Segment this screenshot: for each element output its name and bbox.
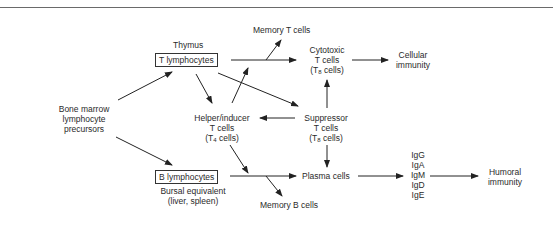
- thymus-label: Thymus: [173, 40, 203, 50]
- edge-t-suppressor: [218, 73, 298, 106]
- bone-marrow-line2: lymphocyte: [52, 114, 116, 124]
- cytotoxic-t-cells-label: Cytotoxic T cells (T8 cells): [300, 45, 354, 77]
- cellular-immunity-label: Cellular immunity: [388, 50, 438, 70]
- helper-line3: (T4 cells): [187, 133, 257, 145]
- edge-helper-t: [232, 68, 248, 103]
- cellular-line1: Cellular: [388, 50, 438, 60]
- bone-marrow-line3: precursors: [52, 124, 116, 134]
- bone-marrow-line1: Bone marrow: [52, 104, 116, 114]
- helper-line2: T cells: [187, 123, 257, 133]
- ig-item: IgG: [406, 150, 430, 160]
- edge-bonemarrow-b: [116, 137, 172, 165]
- ig-item: IgA: [406, 160, 430, 170]
- humoral-immunity-label: Humoral immunity: [480, 167, 530, 187]
- suppressor-line2: T cells: [297, 123, 355, 133]
- memory-b-cells-label: Memory B cells: [260, 200, 318, 210]
- humoral-line1: Humoral: [480, 167, 530, 177]
- helper-inducer-t-cells-label: Helper/inducer T cells (T4 cells): [187, 113, 257, 145]
- b-lymphocytes-box: B lymphocytes: [155, 170, 218, 184]
- t-lymphocytes-box: T lymphocytes: [155, 53, 218, 67]
- suppressor-line1: Suppressor: [297, 113, 355, 123]
- edge-t-helper: [196, 74, 212, 103]
- bone-marrow-precursors-label: Bone marrow lymphocyte precursors: [52, 104, 116, 134]
- cytotoxic-line3: (T8 cells): [300, 65, 354, 77]
- bursal-equivalent-label: Bursal equivalent (liver, spleen): [153, 186, 233, 206]
- bursal-line1: Bursal equivalent: [153, 186, 233, 196]
- helper-line1: Helper/inducer: [187, 113, 257, 123]
- humoral-line2: immunity: [480, 177, 530, 187]
- plasma-cells-label: Plasma cells: [302, 171, 350, 181]
- edge-bonemarrow-t: [118, 72, 172, 100]
- memory-t-cells-label: Memory T cells: [253, 25, 310, 35]
- ig-item: IgM: [406, 170, 430, 180]
- suppressor-t-cells-label: Suppressor T cells (T8 cells): [297, 113, 355, 145]
- bursal-line2: (liver, spleen): [153, 196, 233, 206]
- ig-item: IgD: [406, 180, 430, 190]
- ig-item: IgE: [406, 190, 430, 200]
- edge-b-memoryb: [266, 176, 282, 196]
- edge-helper-b: [230, 145, 248, 173]
- immunoglobulins-list: IgG IgA IgM IgD IgE: [406, 150, 430, 200]
- cellular-line2: immunity: [388, 60, 438, 70]
- cytotoxic-line2: T cells: [300, 55, 354, 65]
- suppressor-line3: (T8 cells): [297, 133, 355, 145]
- cytotoxic-line1: Cytotoxic: [300, 45, 354, 55]
- edge-t-memoryt: [266, 40, 281, 60]
